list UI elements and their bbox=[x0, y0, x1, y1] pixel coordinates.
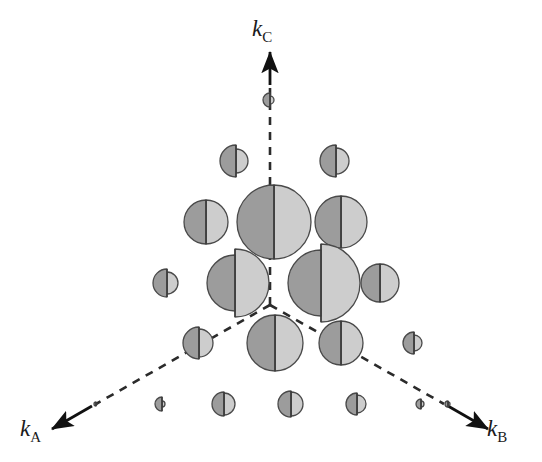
marker-dark-half bbox=[155, 397, 162, 411]
marker-dark-half bbox=[288, 250, 321, 316]
marker-dark-half bbox=[278, 391, 291, 417]
marker-light-half bbox=[321, 244, 360, 322]
marker-light-half bbox=[236, 149, 248, 173]
axis-kb bbox=[270, 305, 488, 429]
axis-arrow-ka bbox=[52, 406, 92, 429]
marker-light-half bbox=[341, 321, 363, 365]
marker-dark-half bbox=[247, 315, 275, 371]
lattice-marker bbox=[263, 93, 274, 107]
lattice-marker bbox=[320, 145, 349, 177]
lattice-marker bbox=[319, 321, 363, 365]
lattice-marker bbox=[361, 264, 399, 302]
marker-light-half bbox=[357, 395, 366, 413]
marker-light-half bbox=[341, 196, 367, 248]
marker-dark-half bbox=[237, 185, 274, 259]
marker-light-half bbox=[291, 392, 303, 416]
marker-dark-half bbox=[184, 200, 206, 244]
axis-label-kb: kB bbox=[487, 417, 507, 445]
lattice-marker bbox=[212, 392, 235, 416]
marker-light-half bbox=[336, 148, 349, 174]
axis-label-kb-letter: k bbox=[487, 416, 497, 441]
axis-label-ka-letter: k bbox=[20, 416, 30, 441]
marker-light-half bbox=[235, 249, 269, 317]
lattice-marker bbox=[207, 249, 269, 317]
axis-dashed-line-ka bbox=[96, 305, 270, 404]
marker-dark-half bbox=[207, 255, 235, 311]
axis-label-kc: kC bbox=[252, 17, 272, 45]
marker-light-half bbox=[274, 185, 311, 259]
marker-dark-half bbox=[212, 392, 224, 416]
kspace-diagram-svg bbox=[0, 0, 542, 462]
lattice-marker bbox=[445, 401, 450, 407]
marker-light-half bbox=[414, 335, 422, 351]
lattice-marker bbox=[220, 145, 248, 177]
marker-dark-half bbox=[315, 196, 341, 248]
lattice-marker bbox=[416, 399, 424, 409]
lattice-marker bbox=[278, 391, 303, 417]
marker-dark-half bbox=[320, 145, 336, 177]
axis-label-kb-subscript: B bbox=[497, 429, 507, 445]
lattice-marker bbox=[315, 196, 367, 248]
axis-arrow-kb bbox=[448, 406, 488, 429]
lattice-marker bbox=[184, 200, 228, 244]
lattice-marker bbox=[346, 393, 366, 415]
lattice-marker bbox=[247, 315, 303, 371]
marker-light-half bbox=[275, 315, 303, 371]
axis-label-ka-subscript: A bbox=[30, 429, 41, 445]
axis-label-kc-subscript: C bbox=[262, 29, 272, 45]
marker-dark-half bbox=[220, 145, 236, 177]
axis-label-ka: kA bbox=[20, 417, 41, 445]
marker-dark-half bbox=[361, 264, 380, 302]
marker-dark-half bbox=[346, 393, 357, 415]
marker-light-half bbox=[206, 200, 228, 244]
lattice-marker bbox=[237, 185, 311, 259]
lattice-marker bbox=[153, 269, 178, 297]
marker-light-half bbox=[224, 393, 235, 415]
lattice-marker bbox=[94, 402, 97, 406]
marker-light-half bbox=[380, 264, 399, 302]
lattice-markers-layer bbox=[94, 93, 450, 417]
marker-dark-half bbox=[403, 332, 414, 354]
marker-dark-half bbox=[263, 93, 270, 107]
lattice-marker bbox=[403, 332, 422, 354]
lattice-marker bbox=[288, 244, 360, 322]
marker-dark-half bbox=[319, 321, 341, 365]
lattice-marker bbox=[183, 327, 213, 359]
marker-light-half bbox=[199, 329, 213, 357]
axis-label-kc-letter: k bbox=[252, 16, 262, 41]
lattice-marker bbox=[155, 397, 165, 411]
marker-light-half bbox=[167, 272, 178, 294]
marker-dark-half bbox=[153, 269, 167, 297]
figure-canvas: kC kA kB bbox=[0, 0, 542, 462]
